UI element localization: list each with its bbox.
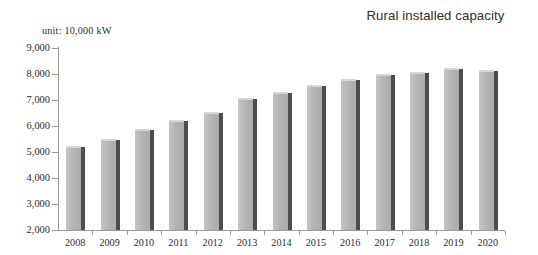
y-axis-tick-label: 8,000 [10,68,50,79]
bar [444,69,459,230]
bar-top-face [204,112,219,114]
y-axis-tick-label: 9,000 [10,42,50,53]
bar-top-face [101,139,116,141]
bar [341,80,356,230]
x-axis-line [58,230,505,231]
bar-side-shadow [253,99,257,230]
bar [101,140,116,230]
bar-top-face [376,74,391,76]
bar-side-shadow [116,140,120,230]
y-axis-tick-label: 6,000 [10,120,50,131]
bar-side-shadow [150,130,154,230]
bar-top-face [479,70,494,72]
x-axis-tick [436,231,437,235]
bar-top-face [169,120,184,122]
chart-title: Rural installed capacity [338,8,533,23]
x-axis-tick [127,231,128,235]
y-axis-tick-label: 5,000 [10,146,50,157]
bar-top-face [238,98,253,100]
bar-side-shadow [81,147,85,230]
x-axis-tick [367,231,368,235]
bar-side-shadow [494,71,498,230]
unit-note-label: unit: 10,000 kW [42,25,112,36]
bar-side-shadow [219,113,223,230]
bar [204,113,219,230]
y-axis-tick-label: 7,000 [10,94,50,105]
x-axis-tick [264,231,265,235]
x-axis-tick [505,231,506,235]
y-axis-tick-label: 4,000 [10,172,50,183]
bar-top-face [410,72,425,74]
bar-side-shadow [425,73,429,230]
bar [135,130,150,230]
x-axis-tick [196,231,197,235]
x-axis-tick [402,231,403,235]
bar-top-face [341,79,356,81]
y-axis-tick-label: 2,000 [10,224,50,235]
bar [307,86,322,230]
bar-top-face [307,85,322,87]
x-axis-tick [92,231,93,235]
x-axis-tick [333,231,334,235]
bar [376,75,391,230]
bar-side-shadow [356,80,360,230]
bar [273,93,288,230]
y-axis-tick-labels: 9,0008,0007,0006,0005,0004,0003,0002,000 [0,0,50,255]
x-axis-tick [299,231,300,235]
bar-series [58,48,505,230]
bar-top-face [273,92,288,94]
bar-side-shadow [391,75,395,230]
x-axis-tick [230,231,231,235]
bar-side-shadow [288,93,292,230]
bar [169,121,184,230]
x-axis-tick [161,231,162,235]
x-axis-tick-label: 2020 [468,237,508,248]
bar-top-face [135,129,150,131]
bar-top-face [444,68,459,70]
bar [66,147,81,230]
bar-chart: Rural installed capacity unit: 10,000 kW… [0,0,538,255]
x-axis-tick [471,231,472,235]
bar [410,73,425,230]
bar-side-shadow [184,121,188,230]
bar-side-shadow [459,69,463,230]
y-axis-tick [52,230,58,231]
bar [479,71,494,230]
bar [238,99,253,230]
bar-top-face [66,146,81,148]
bar-side-shadow [322,86,326,230]
y-axis-tick-label: 3,000 [10,198,50,209]
